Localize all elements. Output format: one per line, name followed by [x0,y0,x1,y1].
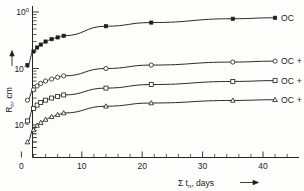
series-label-4: OC + 10 % vermic. [281,95,304,105]
x-axis-tick-label: 20 [137,161,147,171]
x-axis-arrow-icon [240,180,259,184]
data-point-marker [43,79,47,83]
data-point-marker [62,93,66,97]
y-axis-tick-label: 100 [16,7,29,18]
series-label-1: OC [281,13,294,23]
series-label-text: OC + 10 % vermic. [281,95,304,105]
y-axis-ticks [33,12,40,155]
data-point-marker [231,79,235,83]
x-axis-tick-label: 30 [198,161,208,171]
data-point-marker [104,25,107,28]
series-curve [27,18,275,65]
data-point-marker [149,83,153,87]
axes [33,6,300,158]
series-label-text: OC + 5 % vermic. [281,76,304,86]
data-point-marker [39,101,43,105]
data-point-marker [104,86,108,90]
axis-titles: Rn, cm Σ tn, days [4,51,259,190]
data-point-marker [50,96,54,100]
data-point-marker [44,40,47,43]
data-point-marker [104,66,108,70]
series-layer [25,16,277,144]
data-point-marker [273,79,277,83]
data-point-marker [50,77,54,81]
data-point-marker [56,36,59,39]
data-point-marker [31,88,35,92]
data-point-marker [56,94,60,98]
data-point-marker [231,60,235,64]
y-axis-tick-labels: 10010-110-2 [14,7,29,131]
series-label-2: OC + 2.5 % vermic. [281,56,304,66]
series-curve [27,100,275,142]
y-axis-title: Rn, cm [4,87,15,113]
series-label-text: OC [281,13,294,23]
data-point-marker [149,63,153,67]
series-label-3: OC + 5 % vermic. [281,76,304,86]
x-axis-tick-label: 0 [19,161,24,171]
x-axis-tick-labels: 010203040 [19,161,268,171]
data-point-marker [231,17,234,20]
x-axis-tick-label: 10 [77,161,87,171]
data-point-marker [26,63,29,66]
log-linear-line-chart: 10010-110-2 010203040 OCOC + 2.5 % vermi… [0,0,304,191]
data-point-marker [62,34,65,37]
data-point-marker [36,46,39,49]
x-axis-title: Σ tn, days [178,178,214,189]
chart-figure: 10010-110-2 010203040 OCOC + 2.5 % vermi… [0,0,304,191]
data-point-marker [39,43,42,46]
series-label-text: OC + 2.5 % vermic. [281,56,304,66]
data-point-marker [56,75,60,79]
x-axis-tick-label: 40 [258,161,268,171]
data-point-marker [273,16,276,19]
data-point-marker [150,21,153,24]
data-point-marker [273,59,277,63]
data-point-marker [50,38,53,41]
series-4 [25,97,277,143]
data-point-marker [39,81,43,85]
series-label-layer: OCOC + 2.5 % vermic.OC + 5 % vermic.OC +… [281,13,304,105]
x-axis-ticks [21,152,287,158]
data-point-marker [25,98,29,102]
data-point-marker [32,50,35,53]
series-1 [26,16,277,66]
data-point-marker [44,98,48,102]
data-point-marker [25,119,29,123]
data-point-marker [62,74,66,78]
